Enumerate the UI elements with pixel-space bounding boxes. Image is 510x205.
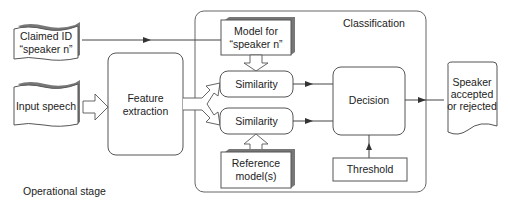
model-for-speaker-block: Model for “speaker n” (221, 17, 295, 55)
feature-to-similarity-fork-arrow (183, 83, 220, 125)
feature-extraction-line1: Feature (127, 92, 163, 104)
claimed-id-input: Claimed ID “speaker n” (14, 22, 80, 60)
similarity-bottom-label: Similarity (235, 115, 278, 127)
model-for-speaker-line1: Model for (234, 25, 278, 37)
similarity-top-arrowhead (305, 81, 313, 87)
model-for-speaker-line2: “speaker n” (229, 38, 283, 50)
decision-block: Decision (333, 67, 405, 135)
similarity-top-block: Similarity (220, 71, 293, 97)
input-speech-label: Input speech (16, 100, 76, 112)
reference-models-line1: Reference (232, 157, 281, 169)
output-line2: accepted (451, 88, 494, 100)
similarity-bottom-arrowhead (305, 118, 313, 124)
threshold-arrowhead (366, 143, 372, 150)
operational-stage-caption: Operational stage (23, 185, 106, 197)
similarity-bottom-block: Similarity (220, 108, 293, 134)
threshold-block: Threshold (333, 158, 407, 181)
speech-to-feature-arrow (83, 94, 108, 120)
decision-output-arrowhead (418, 97, 426, 103)
reference-models-line2: model(s) (236, 170, 277, 182)
threshold-label: Threshold (347, 163, 394, 175)
claimed-id-line1: Claimed ID (20, 30, 72, 42)
decision-label: Decision (349, 94, 389, 106)
output-line3: or rejected (447, 100, 497, 112)
classification-label: Classification (343, 17, 405, 29)
feature-extraction-block: Feature extraction (108, 53, 183, 155)
speaker-verification-diagram: Classification Claimed ID “speaker n” In… (0, 0, 510, 205)
similarity-top-label: Similarity (235, 78, 278, 90)
output-line1: Speaker (452, 76, 492, 88)
reference-models-block: Reference model(s) (221, 149, 295, 188)
claimed-id-arrowhead (143, 37, 151, 43)
speaker-result-output: Speaker accepted or rejected (447, 62, 497, 134)
model-to-similarity-arrow (244, 55, 268, 71)
input-speech-input: Input speech (14, 80, 80, 126)
feature-extraction-line2: extraction (123, 105, 169, 117)
claimed-id-line2: “speaker n” (19, 43, 73, 55)
